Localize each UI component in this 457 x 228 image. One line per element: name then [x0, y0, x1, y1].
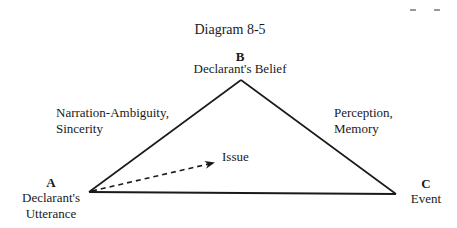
vertex-c-letter: C [406, 176, 446, 191]
scan-mark [410, 9, 416, 11]
vertex-a-letter: A [20, 175, 82, 190]
edge-ab-label-line1: Narration-Ambiguity, [56, 105, 169, 120]
edge-ab-label-line2: Sincerity [56, 121, 103, 136]
issue-label: Issue [222, 149, 249, 164]
vertex-c-label: Event [400, 191, 452, 206]
edge-a-b [89, 80, 241, 192]
vertex-a-label-line1: Declarant's [14, 190, 88, 205]
edge-bc-label-line1: Perception, [334, 105, 393, 120]
edge-bc-label-line2: Memory [334, 121, 379, 136]
scan-mark [434, 9, 440, 11]
diagram-title: Diagram 8-5 [170, 22, 290, 37]
edge-a-c [89, 192, 396, 194]
vertex-b-label: Declarant's Belief [170, 61, 310, 76]
vertex-a-label-line2: Utterance [14, 206, 88, 221]
edge-b-c [241, 80, 396, 194]
